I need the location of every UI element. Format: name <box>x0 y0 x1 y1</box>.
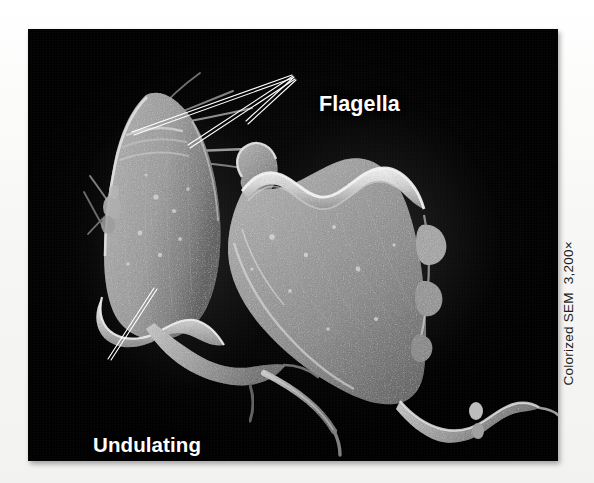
micrograph-panel: Flagella Undulating membrane <box>28 29 558 461</box>
right-cell-free-flagellum <box>540 408 558 415</box>
micrograph-image: Flagella Undulating membrane <box>28 29 558 461</box>
flagella-label: Flagella <box>319 93 400 116</box>
undulating-membrane-label: Undulating membrane <box>93 390 201 461</box>
figure-page: Flagella Undulating membrane Colorized S… <box>0 0 594 483</box>
right-cell-tail <box>396 401 540 443</box>
magnification-credit: Colorized SEM 3,200× <box>561 241 576 385</box>
undulating-membrane-label-line1: Undulating <box>93 434 201 456</box>
flagella-leader-3 <box>246 77 296 124</box>
